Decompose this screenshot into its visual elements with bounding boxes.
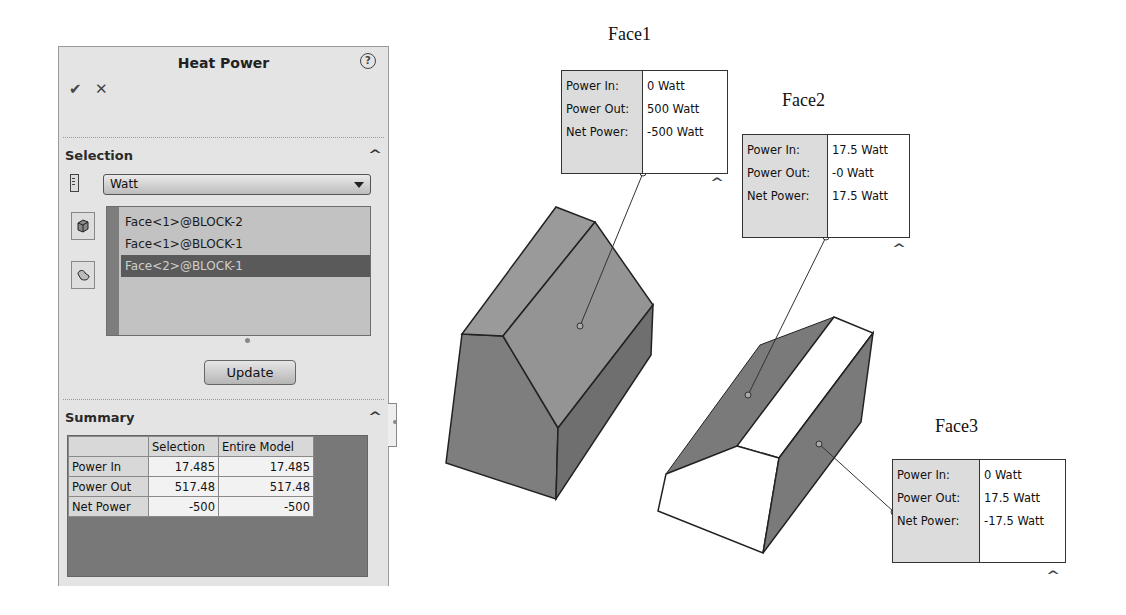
collapse-summary-icon[interactable]: ^ <box>368 410 382 424</box>
column-header: Entire Model <box>219 437 314 457</box>
callout-value: 17.5 Watt <box>984 487 1044 510</box>
callout-key: Net Power: <box>566 121 638 144</box>
summary-table: Selection Entire Model Power In 17.485 1… <box>68 436 314 517</box>
heat-power-panel: Heat Power ? ✔ ✕ Selection ^ Watt Face<1… <box>58 46 389 586</box>
face2-label: Face2 <box>782 90 825 111</box>
face1-collapse-icon[interactable]: ^ <box>710 176 724 190</box>
unit-dropdown[interactable]: Watt <box>103 174 371 195</box>
face1-label: Face1 <box>608 24 651 45</box>
table-row: Net Power -500 -500 <box>69 497 314 517</box>
list-item-selected[interactable]: Face<2>@BLOCK-1 <box>121 255 370 277</box>
block-2[interactable] <box>658 317 873 553</box>
cell-entire: 517.48 <box>219 477 314 497</box>
callout-key: Net Power: <box>897 510 975 533</box>
callout-value: -17.5 Watt <box>984 510 1044 533</box>
face1-callout[interactable]: Power In: Power Out: Net Power: 0 Watt 5… <box>561 70 728 174</box>
callout-value: -500 Watt <box>647 121 703 144</box>
body-shape-icon <box>75 267 91 283</box>
callout-key: Power Out: <box>566 98 638 121</box>
callout-value: -0 Watt <box>832 162 888 185</box>
callout-value: 500 Watt <box>647 98 703 121</box>
callout-value: 17.5 Watt <box>832 185 888 208</box>
help-icon[interactable]: ? <box>360 53 376 69</box>
list-resize-handle[interactable] <box>245 338 250 343</box>
row-label: Power Out <box>69 477 149 497</box>
face2-callout[interactable]: Power In: Power Out: Net Power: 17.5 Wat… <box>742 134 910 238</box>
cell-selection: 17.485 <box>149 457 219 477</box>
callout-key: Power In: <box>897 464 975 487</box>
divider <box>63 137 384 138</box>
cell-entire: 17.485 <box>219 457 314 477</box>
callout-value: 0 Watt <box>984 464 1044 487</box>
callout-key: Power Out: <box>897 487 975 510</box>
face-cube-icon <box>75 218 91 234</box>
face3-callout[interactable]: Power In: Power Out: Net Power: 0 Watt 1… <box>892 459 1066 563</box>
face3-label: Face3 <box>935 416 978 437</box>
face2-collapse-icon[interactable]: ^ <box>892 242 906 256</box>
list-item[interactable]: Face<1>@BLOCK-2 <box>121 211 370 233</box>
callout-key: Power In: <box>747 139 823 162</box>
cell-selection: 517.48 <box>149 477 219 497</box>
cell-entire: -500 <box>219 497 314 517</box>
callout-value: 17.5 Watt <box>832 139 888 162</box>
ok-icon[interactable]: ✔ <box>69 80 82 98</box>
face3-collapse-icon[interactable]: ^ <box>1046 569 1060 583</box>
unit-icon <box>70 174 79 192</box>
row-label: Net Power <box>69 497 149 517</box>
summary-table-area: Selection Entire Model Power In 17.485 1… <box>67 435 368 577</box>
callout-key: Power In: <box>566 75 638 98</box>
panel-title: Heat Power <box>59 55 388 71</box>
table-row: Power Out 517.48 517.48 <box>69 477 314 497</box>
body-filter-button[interactable] <box>71 261 95 289</box>
chevron-down-icon <box>354 182 364 188</box>
callout-key: Net Power: <box>747 185 823 208</box>
row-label: Power In <box>69 457 149 477</box>
list-color-bar <box>107 207 119 335</box>
cancel-icon[interactable]: ✕ <box>95 80 108 98</box>
update-button[interactable]: Update <box>204 360 296 385</box>
callout-key: Power Out: <box>747 162 823 185</box>
face-filter-button[interactable] <box>71 212 95 240</box>
divider <box>63 399 384 400</box>
summary-section-title: Summary <box>65 410 134 425</box>
selection-section-title: Selection <box>65 148 133 163</box>
cell-selection: -500 <box>149 497 219 517</box>
panel-flyout-tab[interactable] <box>388 403 397 447</box>
column-header <box>69 437 149 457</box>
list-item[interactable]: Face<1>@BLOCK-1 <box>121 233 370 255</box>
panel-tab-handle[interactable] <box>393 420 397 424</box>
column-header: Selection <box>149 437 219 457</box>
callout-value: 0 Watt <box>647 75 703 98</box>
block-1[interactable] <box>446 207 653 499</box>
unit-value: Watt <box>110 177 138 191</box>
collapse-selection-icon[interactable]: ^ <box>368 148 382 162</box>
table-row: Power In 17.485 17.485 <box>69 457 314 477</box>
selection-list[interactable]: Face<1>@BLOCK-2 Face<1>@BLOCK-1 Face<2>@… <box>106 206 371 336</box>
